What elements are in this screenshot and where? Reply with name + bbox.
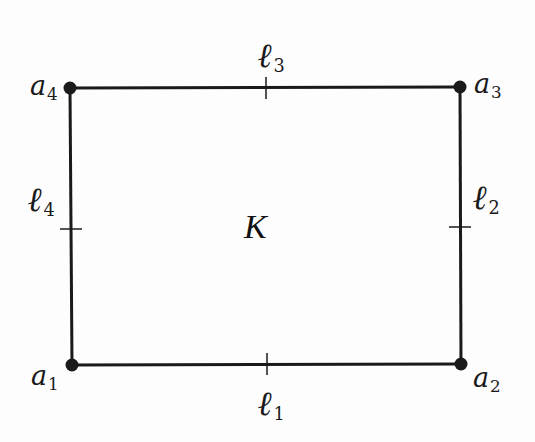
edge-label-base: ℓ	[28, 179, 43, 219]
element-label-K: K	[244, 210, 267, 244]
vertex-label-a3: a3	[474, 70, 502, 100]
vertex-label-sub: 2	[490, 376, 501, 396]
vertex-label-base: a	[473, 362, 489, 393]
edge-label-base: ℓ	[258, 383, 273, 423]
edge-l3-top	[70, 87, 460, 88]
edge-l2-right	[460, 87, 461, 364]
edge-label-sub: 3	[274, 56, 285, 76]
vertex-label-a2: a2	[473, 364, 501, 394]
edge-label-l3: ℓ3	[258, 38, 285, 76]
vertex-a3-dot	[454, 81, 467, 94]
edge-label-sub: 4	[44, 200, 55, 220]
vertex-label-sub: 3	[491, 82, 502, 102]
edge-label-sub: 2	[489, 198, 500, 218]
vertex-a4-dot	[64, 82, 77, 95]
vertex-label-base: a	[474, 68, 490, 99]
edge-label-base: ℓ	[473, 177, 488, 217]
vertex-label-base: a	[30, 70, 46, 101]
vertex-label-a4: a4	[30, 72, 58, 102]
edge-label-l1: ℓ1	[258, 386, 285, 424]
vertex-a1-dot	[66, 359, 79, 372]
edge-l4-left	[70, 88, 72, 365]
edge-label-l4: ℓ4	[28, 182, 55, 220]
vertex-label-sub: 4	[47, 84, 58, 104]
edge-label-base: ℓ	[258, 35, 273, 75]
vertex-label-a1: a1	[31, 362, 59, 392]
vertex-label-base: a	[31, 360, 47, 391]
diagram-canvas: a4 a3 a1 a2 ℓ3 ℓ1 ℓ4 ℓ2 K	[0, 0, 535, 442]
vertex-label-sub: 1	[48, 374, 59, 394]
edge-label-l2: ℓ2	[473, 180, 500, 218]
vertex-a2-dot	[455, 358, 468, 371]
edge-label-sub: 1	[274, 404, 285, 424]
